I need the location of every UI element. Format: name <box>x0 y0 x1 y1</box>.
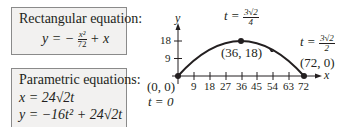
x-tick-72: 72 <box>298 80 309 92</box>
x-tick-63: 63 <box>283 80 294 92</box>
x-tick-45: 45 <box>251 80 262 92</box>
origin-point <box>175 73 181 79</box>
x-tick-9: 9 <box>191 80 197 92</box>
y-axis-label: y <box>175 11 180 26</box>
x-tick-54: 54 <box>267 80 278 92</box>
x-tick-27: 27 <box>220 80 231 92</box>
end-point <box>301 73 307 79</box>
end-label: (72, 0) <box>300 55 335 71</box>
origin-t-label: t = 0 <box>148 94 173 110</box>
x-tick-36: 36 <box>236 80 247 92</box>
origin-label: (0, 0) <box>147 79 175 95</box>
parabola-graph <box>0 0 348 127</box>
vertex-t-label: t = 3√2 4 <box>224 8 259 27</box>
y-tick-18: 18 <box>160 34 171 46</box>
x-tick-18: 18 <box>204 80 215 92</box>
x-axis-arrow-icon <box>315 74 322 79</box>
vertex-label: (36, 18) <box>221 45 262 61</box>
vertex-point <box>238 38 244 44</box>
end-t-label: t = 3√2 2 <box>300 34 335 53</box>
y-tick-9: 9 <box>165 52 171 64</box>
